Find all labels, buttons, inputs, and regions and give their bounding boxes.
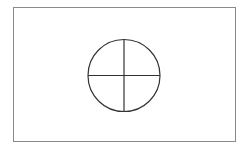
circle-cross-diagram [0, 0, 249, 151]
